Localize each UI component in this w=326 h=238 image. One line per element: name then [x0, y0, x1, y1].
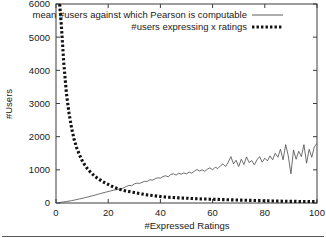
y-tick-label: 2000 — [29, 131, 50, 142]
y-tick-label: 0 — [45, 197, 50, 208]
x-tick-label: 20 — [103, 207, 114, 218]
x-tick-label: 40 — [155, 207, 166, 218]
x-axis-title: #Expressed Ratings — [144, 220, 229, 231]
legend-label: #users expressing x ratings — [131, 21, 247, 32]
y-tick-label: 3000 — [29, 98, 50, 109]
y-tick-label: 5000 — [29, 32, 50, 43]
chart-figure: 0100020003000400050006000 020406080100 m… — [0, 0, 326, 238]
x-tick-label: 100 — [309, 207, 325, 218]
y-axis-title: #Users — [3, 89, 14, 119]
x-tick-label: 60 — [207, 207, 218, 218]
y-tick-label: 1000 — [29, 164, 50, 175]
x-tick-label: 80 — [260, 207, 271, 218]
y-tick-label: 6000 — [29, 0, 50, 9]
y-tick-label: 4000 — [29, 65, 50, 76]
chart-canvas: 0100020003000400050006000 020406080100 m… — [0, 0, 326, 238]
x-tick-label: 0 — [53, 207, 58, 218]
legend-label: mean #users against which Pearson is com… — [33, 9, 247, 20]
